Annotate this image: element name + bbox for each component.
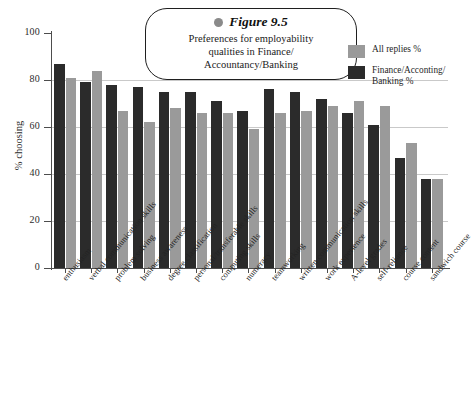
legend-label-all-replies: All replies %: [372, 44, 421, 55]
figure-title-line-1: Preferences for employability: [156, 32, 346, 45]
figure-title-line-2: qualities in Finance/: [156, 45, 346, 58]
chart-legend: All replies % Finance/Acconting/ Banking…: [348, 44, 458, 94]
legend-swatch-icon-all-replies: [348, 45, 365, 58]
figure-label-row: Figure 9.5: [156, 14, 346, 30]
gray-dot-icon: [214, 18, 223, 27]
figure-title-text: Preferences for employability qualities …: [156, 32, 346, 71]
figure-number: Figure 9.5: [229, 14, 288, 30]
figure-title-line-3: Accountancy/Banking: [156, 58, 346, 71]
legend-swatch-icon-finance: [348, 66, 365, 79]
legend-item-all-replies: All replies %: [348, 44, 458, 58]
legend-label-finance: Finance/Acconting/ Banking %: [372, 65, 458, 87]
legend-item-finance: Finance/Acconting/ Banking %: [348, 65, 458, 87]
x-label-business-awareness: business awareness: [138, 224, 190, 283]
figure-title-callout: Figure 9.5 Preferences for employability…: [145, 8, 357, 80]
